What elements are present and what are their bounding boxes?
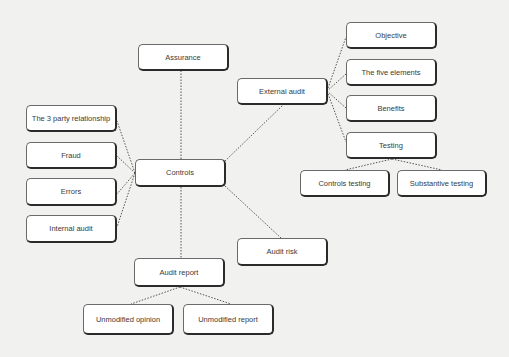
node-audit-report: Audit report (134, 258, 225, 287)
connector-controls-internal-audit (117, 173, 135, 227)
node-unmodified-report: Unmodified report (183, 304, 274, 335)
node-audit-risk: Audit risk (237, 238, 328, 266)
connector-testing-substantive-testing (392, 159, 442, 170)
connector-testing-controls-testing (345, 159, 392, 170)
node-internal-audit: Internal audit (26, 215, 117, 243)
node-label: Testing (379, 141, 403, 150)
node-label: Substantive testing (410, 179, 473, 188)
node-unmodified-opinion: Unmodified opinion (83, 304, 174, 335)
node-label: Controls testing (318, 179, 370, 188)
node-label: Audit report (160, 268, 199, 277)
node-label: The 3 party relationship (32, 114, 110, 123)
connector-audit-report-unmodified-opinion (131, 287, 180, 304)
node-label: Audit risk (267, 247, 298, 256)
connector-controls-errors (117, 173, 135, 194)
connector-external-audit-five-elements (327, 74, 346, 91)
node-assurance: Assurance (138, 44, 229, 71)
node-three-party-relationship: The 3 party relationship (26, 105, 117, 132)
node-label: Assurance (165, 53, 200, 62)
connector-controls-three-party (117, 121, 135, 173)
node-label: Objective (375, 31, 406, 40)
node-controls-testing: Controls testing (300, 170, 390, 197)
node-label: Controls (166, 168, 194, 177)
mind-map-canvas: Assurance External audit Objective The f… (0, 0, 509, 357)
node-label: Internal audit (49, 224, 92, 233)
node-five-elements: The five elements (346, 59, 437, 86)
connector-controls-fraud (117, 156, 135, 173)
node-external-audit: External audit (237, 78, 328, 105)
node-controls: Controls (135, 159, 226, 187)
node-label: Errors (61, 187, 81, 196)
node-benefits: Benefits (346, 95, 437, 122)
node-label: Benefits (377, 104, 404, 113)
connector-external-audit-benefits (327, 91, 346, 108)
node-testing: Testing (346, 132, 437, 159)
node-substantive-testing: Substantive testing (397, 170, 487, 197)
connector-controls-audit-risk (225, 186, 281, 238)
connector-external-audit-testing (327, 91, 346, 142)
node-label: The five elements (361, 68, 420, 77)
node-label: Fraud (61, 151, 81, 160)
node-objective: Objective (346, 22, 437, 49)
connector-audit-report-unmodified-report (180, 287, 231, 304)
node-label: Unmodified opinion (96, 315, 160, 324)
connector-controls-external-audit (225, 105, 283, 161)
node-fraud: Fraud (26, 142, 117, 169)
node-label: Unmodified report (198, 315, 258, 324)
node-errors: Errors (26, 178, 117, 206)
node-label: External audit (259, 87, 305, 96)
